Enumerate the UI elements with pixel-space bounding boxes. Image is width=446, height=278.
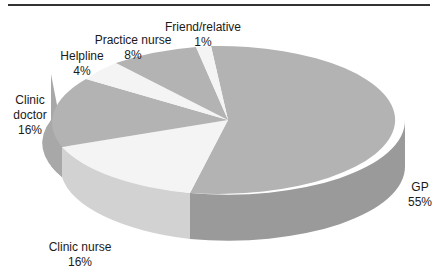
label-clinic-doctor: Clinic doctor 16% xyxy=(10,93,50,138)
label-name: Clinic nurse xyxy=(40,240,120,255)
label-name: Practice nurse xyxy=(88,33,178,48)
label-name: Helpline xyxy=(52,49,112,64)
label-name: GP xyxy=(402,180,438,195)
label-pct: 4% xyxy=(52,64,112,79)
label-pct: 55% xyxy=(402,195,438,210)
label-name: Clinic xyxy=(10,93,50,108)
label-pct: 16% xyxy=(10,123,50,138)
label-gp: GP 55% xyxy=(402,180,438,210)
label-pct: 16% xyxy=(40,255,120,270)
label-helpline: Helpline 4% xyxy=(52,49,112,79)
label-clinic-nurse: Clinic nurse 16% xyxy=(40,240,120,270)
label-name-2: doctor xyxy=(10,108,50,123)
